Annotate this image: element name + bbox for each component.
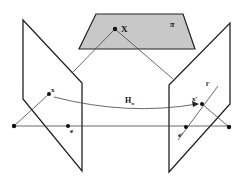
label-e-prime: e′ — [178, 131, 183, 139]
label-l-prime: l′ — [206, 80, 210, 88]
left-camera-center — [12, 124, 16, 128]
label-e: e — [70, 127, 73, 135]
label-X: X — [121, 24, 128, 34]
ray-right-camera-to-x-prime — [202, 104, 229, 127]
left-image-plane — [23, 20, 82, 171]
world-point-X — [113, 27, 117, 31]
right-camera-center — [227, 125, 231, 129]
label-x: x — [51, 86, 55, 94]
epipolar-geometry-diagram: X π x e Hπ x′ e′ l′ — [0, 0, 243, 186]
label-x-prime: x′ — [192, 95, 198, 103]
scene-plane-pi — [79, 14, 195, 49]
image-point-x-prime — [200, 102, 204, 106]
label-H: Hπ — [125, 96, 134, 106]
epipole-e-prime — [184, 125, 188, 129]
ray-left-camera-to-x — [14, 94, 49, 126]
label-pi: π — [170, 20, 175, 29]
